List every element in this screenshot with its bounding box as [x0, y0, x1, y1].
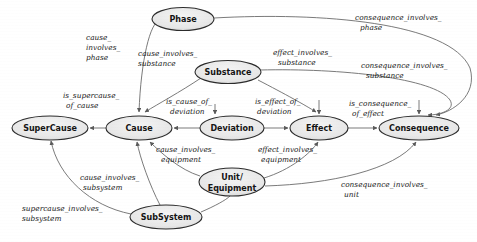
edge-label-is-supercause-of-cause: is_supercause_ of_cause	[63, 91, 120, 110]
edge-label-line: unit	[344, 190, 359, 199]
edge-label-line: of_cause	[66, 101, 99, 110]
node-unit-equipment-label-line2: Equipment	[208, 184, 257, 193]
node-deviation[interactable]: Deviation	[200, 116, 264, 140]
edge-label-line: consequence_involves_	[355, 13, 442, 22]
node-substance-label: Substance	[204, 68, 252, 77]
edge-label-is-consequence-of-effect: is_consequence_ of_effect	[349, 99, 412, 118]
edge-label-cause-involves-equipment: cause_involves_ equipment	[156, 145, 216, 164]
graph-svg: Phase Substance SuperCause Cause Deviati…	[0, 0, 477, 242]
edge-label-consequence-involves-substance: consequence_involves_ substance	[361, 61, 448, 80]
edge-label-consequence-involves-unit: consequence_involves_ unit	[341, 180, 428, 199]
diagram-canvas: Phase Substance SuperCause Cause Deviati…	[0, 0, 477, 242]
edge-label-cause-involves-phase: cause_ involves_ phase	[86, 33, 120, 62]
edge-label-line: is_effect_of_	[255, 97, 301, 106]
edge-label-line: subsystem	[22, 214, 61, 223]
edge-label-line: effect_involves_	[258, 145, 317, 154]
node-supercause[interactable]: SuperCause	[12, 116, 88, 140]
edge-label-line: involves_	[86, 43, 120, 52]
edge-label-cause-involves-substance: cause_involves_ substance	[138, 49, 198, 68]
node-phase[interactable]: Phase	[152, 8, 214, 31]
edge-label-line: deviation	[170, 107, 205, 116]
node-phase-label: Phase	[169, 15, 197, 24]
edge-label-line: is_cause_of_	[166, 97, 212, 106]
edge-label-line: of_effect	[352, 109, 384, 118]
edge-label-effect-involves-equipment: effect_involves_ equipment	[258, 145, 317, 164]
node-effect-label: Effect	[306, 124, 332, 133]
edge-label-supercause-involves-subsystem: supercause_involves_ subsystem	[22, 204, 103, 223]
node-cause[interactable]: Cause	[106, 116, 172, 140]
edge-label-effect-involves-substance: effect_involves_ substance	[273, 48, 332, 67]
edge-label-line: is_consequence_	[349, 99, 412, 108]
node-subsystem[interactable]: SubSystem	[130, 205, 202, 229]
edge-label-cause-involves-subsystem: cause_involves_ subsystem	[80, 173, 140, 192]
edge-label-consequence-involves-phase: consequence_involves_ phase	[355, 13, 442, 32]
node-effect[interactable]: Effect	[290, 116, 348, 140]
edge-label-line: phase	[360, 23, 383, 32]
edge-subsystem-unit-connector	[201, 196, 230, 212]
node-subsystem-label: SubSystem	[141, 213, 192, 222]
edge-label-line: cause_involves_	[156, 145, 216, 154]
node-supercause-label: SuperCause	[23, 124, 77, 133]
edge-label-line: cause_involves_	[138, 49, 198, 58]
edge-label-line: deviation	[257, 107, 292, 116]
node-substance[interactable]: Substance	[195, 61, 261, 84]
edge-label-line: equipment	[161, 155, 201, 164]
edge-label-line: substance	[278, 58, 316, 67]
edge-label-line: cause_involves_	[80, 173, 140, 182]
edge-label-is-effect-of-deviation: is_effect_of_ deviation	[255, 97, 301, 116]
edge-label-line: substance	[138, 59, 176, 68]
edge-label-line: cause_	[86, 33, 111, 42]
edge-label-line: substance	[366, 71, 404, 80]
nodes-layer: Phase Substance SuperCause Cause Deviati…	[12, 8, 459, 230]
node-unit-equipment-label-line1: Unit/	[221, 173, 243, 182]
node-unit-equipment[interactable]: Unit/ Equipment	[199, 168, 265, 196]
edge-label-line: phase	[86, 53, 109, 62]
edge-label-line: supercause_involves_	[22, 204, 103, 213]
node-consequence[interactable]: Consequence	[379, 116, 459, 140]
edge-label-line: equipment	[261, 155, 301, 164]
edge-label-line: subsystem	[83, 183, 122, 192]
node-deviation-label: Deviation	[210, 124, 253, 133]
node-cause-label: Cause	[125, 124, 153, 133]
edge-label-line: is_supercause_	[63, 91, 120, 100]
node-consequence-label: Consequence	[389, 124, 450, 133]
edge-label-is-cause-of-deviation: is_cause_of_ deviation	[166, 97, 212, 116]
edge-label-line: consequence_involves_	[361, 61, 448, 70]
edge-label-line: effect_involves_	[273, 48, 332, 57]
edge-label-line: consequence_involves_	[341, 180, 428, 189]
